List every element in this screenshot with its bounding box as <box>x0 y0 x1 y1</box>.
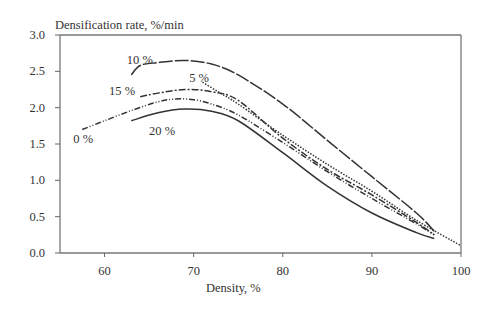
y-tick-label: 2.0 <box>29 101 45 115</box>
y-tick-label: 1.5 <box>29 137 45 151</box>
x-tick-label: 100 <box>452 264 471 278</box>
plot-frame <box>60 35 461 253</box>
curve-label: 20 % <box>149 124 175 138</box>
x-tick-label: 80 <box>277 264 290 278</box>
y-axis-title: Densification rate, %/min <box>55 18 185 32</box>
y-tick-label: 0.5 <box>29 210 45 224</box>
y-tick-label: 0.0 <box>29 246 45 260</box>
curves <box>82 60 461 245</box>
y-axis: 0.00.51.01.52.02.53.0 <box>29 28 60 260</box>
x-tick-label: 60 <box>98 264 111 278</box>
x-tick-label: 70 <box>187 264 200 278</box>
curve-10-percent <box>131 60 434 231</box>
curve-15-percent <box>140 89 434 234</box>
curve-5-percent <box>203 82 461 246</box>
y-tick-label: 1.0 <box>29 173 45 187</box>
chart-canvas: 0.00.51.01.52.02.53.0 60708090100 Densif… <box>0 0 492 309</box>
curve-label: 0 % <box>73 132 93 146</box>
curve-label: 10 % <box>127 53 153 67</box>
x-axis-title: Density, % <box>206 281 261 295</box>
y-tick-label: 2.5 <box>29 64 45 78</box>
x-tick-label: 90 <box>366 264 379 278</box>
curve-20-percent <box>131 109 434 238</box>
curve-label: 15 % <box>109 84 135 98</box>
x-axis: 60708090100 <box>98 253 470 278</box>
y-tick-label: 3.0 <box>29 28 45 42</box>
curve-labels: 10 %5 %15 %0 %20 % <box>73 53 209 145</box>
curve-label: 5 % <box>189 71 209 85</box>
